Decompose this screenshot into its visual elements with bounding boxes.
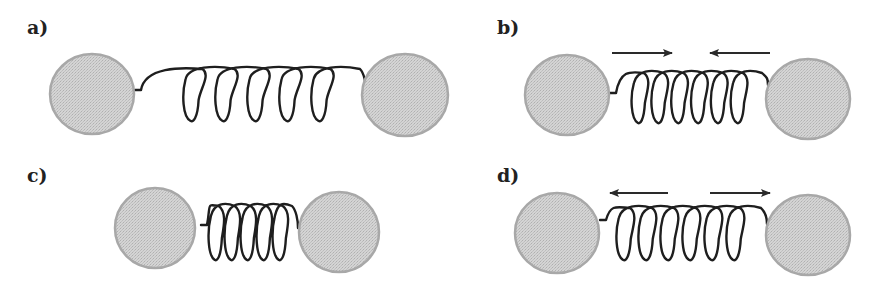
spring-coil	[610, 71, 768, 123]
mass-ball-left	[515, 193, 599, 273]
mass-ball-left	[525, 55, 609, 135]
mass-ball-left	[115, 188, 195, 268]
spring-mass-diagram	[0, 0, 869, 289]
panel-a-equilibrium	[50, 54, 448, 136]
panel-d-compressed-restoring	[515, 193, 850, 275]
mass-ball-left	[50, 54, 134, 134]
panel-b-stretched	[525, 53, 850, 139]
mass-ball-right	[766, 195, 850, 275]
spring-coil	[135, 67, 366, 121]
spring-coil	[201, 204, 298, 260]
panel-c-compressed	[115, 188, 379, 272]
spring-coil	[600, 206, 767, 260]
mass-ball-right	[766, 59, 850, 139]
mass-ball-right	[299, 192, 379, 272]
mass-ball-right	[362, 54, 448, 136]
